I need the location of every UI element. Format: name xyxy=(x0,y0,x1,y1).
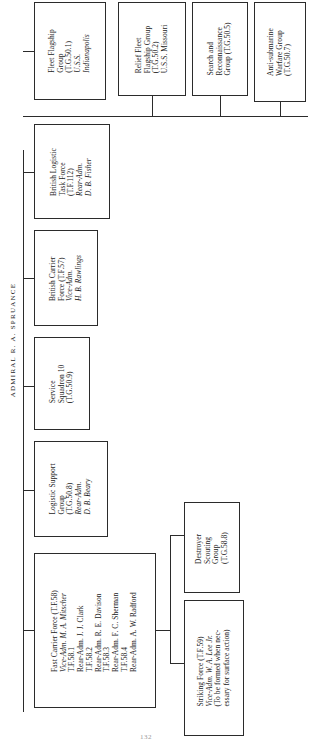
connector-british-carrier xyxy=(23,278,34,279)
node-fleet-flagship-group-text: Fleet Flagship Group (T.G.50.1) U.S.S. I… xyxy=(48,29,92,73)
node-british-carrier-force-text: British Carrier Force (T.F.57) Vice-Adm.… xyxy=(49,255,84,301)
node-search-reconnaissance-group-text: Search and Reconnaissance Group (T.G.50.… xyxy=(207,22,233,75)
node-british-carrier-force[interactable]: British Carrier Force (T.F.57) Vice-Adm.… xyxy=(34,230,98,326)
node-fleet-flagship-group[interactable]: Fleet Flagship Group (T.G.50.1) U.S.S. I… xyxy=(34,2,106,100)
node-fast-carrier-force-text: Fast Carrier Force (T.F.58) Vice-Adm. M.… xyxy=(51,590,138,672)
node-striking-force-text: Striking Force (T.F.59) Vice-Adm. W. A. … xyxy=(197,629,232,706)
connector-service-squadron xyxy=(23,386,34,387)
node-service-squadron-10-text: Service Squadron 10 (T.G.50.9) xyxy=(49,364,75,403)
stem-fast-carrier-children xyxy=(156,630,170,631)
connector-logistic-support xyxy=(23,490,34,491)
bus-line-fast-carrier-children xyxy=(170,535,171,663)
connector-relief-fleet-flagship xyxy=(152,96,153,116)
connector-search-reconnaissance xyxy=(220,96,221,116)
connector-antisubmarine-warfare xyxy=(280,102,281,116)
node-logistic-support-group[interactable]: Logistic Support Group (T.G.50.8) Rear-A… xyxy=(34,441,108,537)
bus-line-top-row xyxy=(23,116,308,117)
node-striking-force[interactable]: Striking Force (T.F.59) Vice-Adm. W. A. … xyxy=(184,600,244,736)
node-british-logistic-task-force[interactable]: British Logistic Task Force (T.F.112) Re… xyxy=(34,124,110,219)
root-label-admiral-spruance: ADMIRAL R. A. SPRUANCE xyxy=(9,283,17,398)
connector-fast-carrier xyxy=(23,630,34,631)
connector-british-logistic xyxy=(23,172,34,173)
connector-fleet-flagship xyxy=(23,51,34,52)
node-relief-fleet-flagship-group-text: Relief Fleet Flagship Group (T.G.50.2) U… xyxy=(135,25,170,74)
node-relief-fleet-flagship-group[interactable]: Relief Fleet Flagship Group (T.G.50.2) U… xyxy=(118,2,186,96)
node-british-logistic-task-force-text: British Logistic Task Force (T.F.112) Re… xyxy=(50,148,94,196)
trunk-line-main xyxy=(23,150,24,712)
node-search-reconnaissance-group[interactable]: Search and Reconnaissance Group (T.G.50.… xyxy=(192,2,248,96)
node-destroyer-scouting-group[interactable]: Destroyer Scouting Group (T.G.58.8) xyxy=(184,502,240,593)
node-service-squadron-10[interactable]: Service Squadron 10 (T.G.50.9) xyxy=(34,337,90,430)
node-destroyer-scouting-group-text: Destroyer Scouting Group (T.G.58.8) xyxy=(195,532,230,564)
node-fast-carrier-force[interactable]: Fast Carrier Force (T.F.58) Vice-Adm. M.… xyxy=(34,553,156,708)
connector-striking-force xyxy=(170,663,184,664)
node-logistic-support-group-text: Logistic Support Group (T.G.50.8) Rear-A… xyxy=(49,463,93,514)
node-antisubmarine-warfare-group-text: Anti-submarine Warfare Group (T.G.50.7) xyxy=(267,28,293,76)
node-antisubmarine-warfare-group[interactable]: Anti-submarine Warfare Group (T.G.50.7) xyxy=(254,2,306,102)
page-number: 132 xyxy=(140,733,152,741)
connector-destroyer-scouting xyxy=(170,535,184,536)
